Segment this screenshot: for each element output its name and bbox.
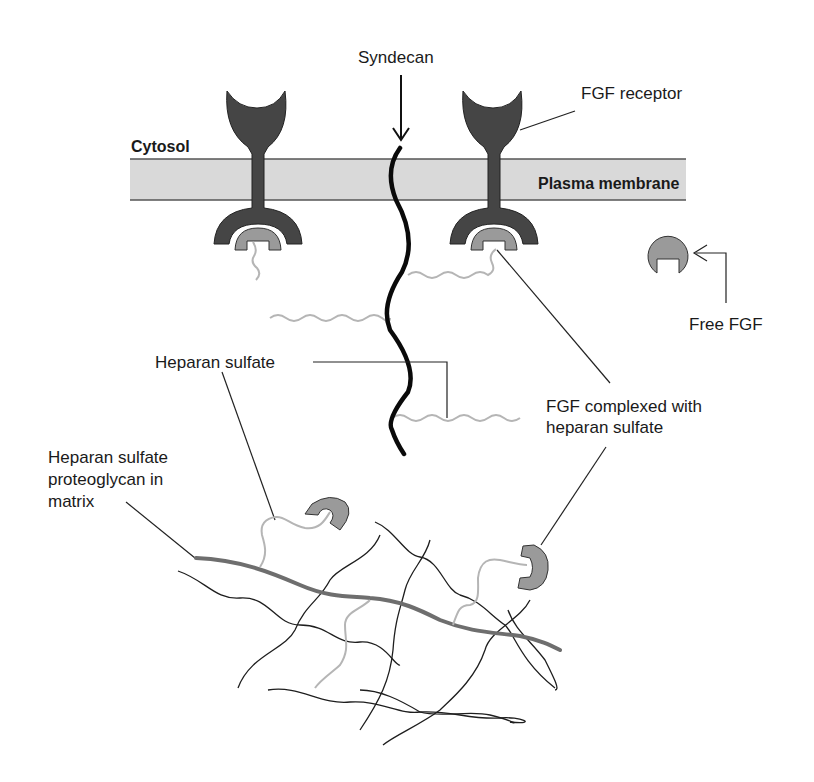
hspg-label-line1: Heparan sulfate [48, 448, 168, 467]
free-fgf [648, 236, 688, 273]
fgf-receptor-label: FGF receptor [581, 84, 682, 103]
fgf-receptor-leader-line [520, 111, 575, 130]
fgf-complexed-leader-line-top [497, 250, 610, 383]
hspg-label-line2: proteoglycan in [48, 470, 163, 489]
hspg-leader-line [126, 502, 195, 558]
heparan-sulfate-label: Heparan sulfate [155, 353, 275, 372]
syndecan-label: Syndecan [358, 48, 434, 67]
fgf-heparan-diagram: Syndecan FGF receptor Cytosol Plasma mem… [0, 0, 814, 782]
hspg-label-line3: matrix [48, 492, 95, 511]
matrix-fgf-2 [518, 545, 548, 590]
plasma-membrane-label: Plasma membrane [538, 175, 680, 192]
heparan-sulfate-leader-line-matrix [222, 372, 275, 520]
syndecan-arrow [393, 75, 409, 140]
free-fgf-label: Free FGF [689, 315, 763, 334]
free-fgf-arrow [694, 245, 726, 303]
matrix-fgf-1 [305, 497, 349, 530]
fgf-complexed-leader-line-bottom [541, 447, 606, 545]
cytosol-label: Cytosol [131, 138, 190, 155]
heparan-sulfate-leader-line [313, 362, 447, 418]
fgf-complexed-label-line1: FGF complexed with [546, 397, 702, 416]
matrix-proteoglycan [196, 558, 560, 650]
fgf-complexed-label-line2: heparan sulfate [546, 418, 663, 437]
